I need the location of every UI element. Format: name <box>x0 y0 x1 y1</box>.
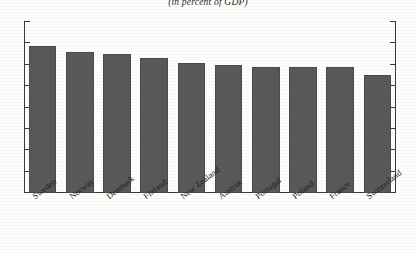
bar <box>289 67 317 193</box>
x-axis-tick-labels: SwedenNorwayDenmarkFinlandNew ZealandAus… <box>24 194 396 253</box>
bar-slot <box>284 22 321 193</box>
bar-slot <box>98 22 135 193</box>
bar <box>252 67 280 193</box>
bar <box>326 67 354 193</box>
bar <box>140 58 168 193</box>
bar-slot <box>24 22 61 193</box>
bar-slot <box>247 22 284 193</box>
bar-slot <box>173 22 210 193</box>
bar-chart: (in percent of GDP) 012345678 SwedenNorw… <box>0 0 416 253</box>
bar-slot <box>136 22 173 193</box>
bar <box>178 63 206 193</box>
chart-subtitle: (in percent of GDP) <box>0 0 416 7</box>
bar <box>66 52 94 193</box>
bar-slot <box>359 22 396 193</box>
bar <box>103 54 131 193</box>
bar-slot <box>322 22 359 193</box>
bar <box>29 46 57 193</box>
bar-slot <box>61 22 98 193</box>
